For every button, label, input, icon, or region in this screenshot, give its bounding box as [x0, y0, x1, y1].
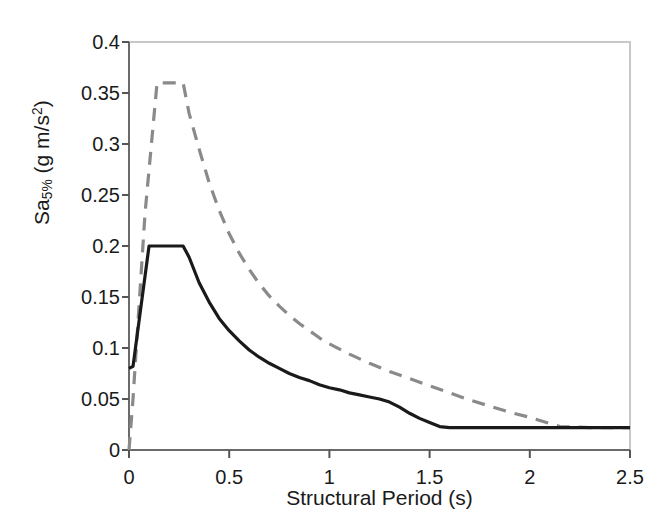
y-axis-title-units-open: (g m/s: [30, 115, 53, 179]
chart-figure: 00.050.10.150.20.250.30.350.4 00.511.522…: [0, 0, 670, 532]
plot-frame: [129, 42, 630, 450]
y-axis-title-base: Sa: [30, 199, 53, 225]
y-axis-title: Sa5% (g m/s2): [29, 13, 54, 313]
y-axis-title-superscript: 2: [29, 107, 45, 115]
x-axis-title: Structural Period (s): [129, 486, 630, 510]
y-axis-title-subscript: 5%: [39, 179, 55, 199]
y-axis-tick-label: 0.1: [20, 337, 120, 360]
y-axis-title-units-close: ): [30, 100, 53, 107]
y-axis-tick-label: 0: [20, 439, 120, 462]
y-axis-ticks: [122, 42, 129, 450]
x-axis-ticks: [129, 450, 630, 458]
y-axis-tick-label: 0.05: [20, 388, 120, 411]
